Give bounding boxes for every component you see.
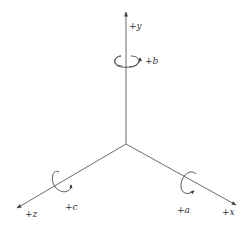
y-axis-label: +y	[129, 22, 142, 31]
x-axis	[126, 144, 236, 205]
z-axis	[17, 144, 126, 208]
coordinate-axes-diagram	[0, 0, 248, 227]
x-axis-label: +x	[222, 208, 235, 217]
rotation-a-arrow-icon	[181, 172, 196, 194]
rotation-c-label: +c	[65, 203, 78, 212]
z-axis-label: +z	[25, 210, 37, 219]
rotation-a-label: +a	[177, 206, 190, 215]
rotation-b-label: +b	[145, 57, 158, 66]
